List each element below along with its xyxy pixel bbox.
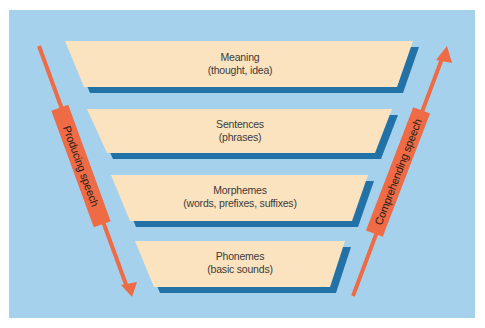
level-sentences-subtitle: (phrases) bbox=[219, 131, 262, 143]
level-meaning-title: Meaning bbox=[221, 51, 260, 63]
level-phonemes: Phonemes (basic sounds) bbox=[135, 241, 351, 293]
level-morphemes-subtitle: (words, prefixes, suffixes) bbox=[183, 197, 296, 209]
level-sentences-title: Sentences bbox=[216, 118, 264, 130]
level-sentences: Sentences (phrases) bbox=[87, 109, 398, 159]
level-morphemes: Morphemes (words, prefixes, suffixes) bbox=[111, 175, 374, 227]
level-meaning-subtitle: (thought, idea) bbox=[208, 64, 273, 76]
level-phonemes-subtitle: (basic sounds) bbox=[207, 263, 272, 275]
level-meaning: Meaning (thought, idea) bbox=[65, 41, 419, 93]
language-hierarchy-diagram: Meaning (thought, idea) Sentences (phras… bbox=[0, 0, 485, 328]
level-morphemes-title: Morphemes bbox=[213, 184, 267, 196]
level-phonemes-title: Phonemes bbox=[216, 250, 265, 262]
